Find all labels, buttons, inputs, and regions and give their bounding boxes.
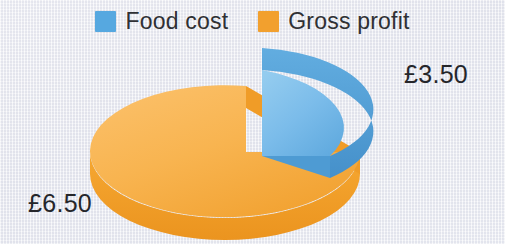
data-label-gross-profit: £6.50 bbox=[28, 191, 92, 216]
data-label-food-cost: £3.50 bbox=[404, 62, 468, 87]
pie-chart-figure: Food cost Gross profit bbox=[0, 0, 505, 244]
pie-slice-food-cost[interactable] bbox=[262, 48, 373, 178]
